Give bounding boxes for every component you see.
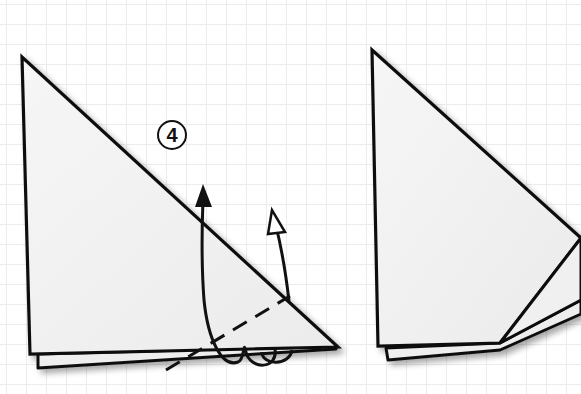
diagram-canvas: 4 bbox=[0, 0, 581, 394]
step-number-badge: 4 bbox=[158, 121, 186, 149]
figure-before-fold bbox=[22, 57, 338, 368]
origami-diagram: 4 bbox=[0, 0, 581, 394]
paper-main-triangle bbox=[22, 57, 338, 354]
step-number-text: 4 bbox=[166, 124, 178, 146]
figure-after-fold bbox=[372, 50, 581, 360]
